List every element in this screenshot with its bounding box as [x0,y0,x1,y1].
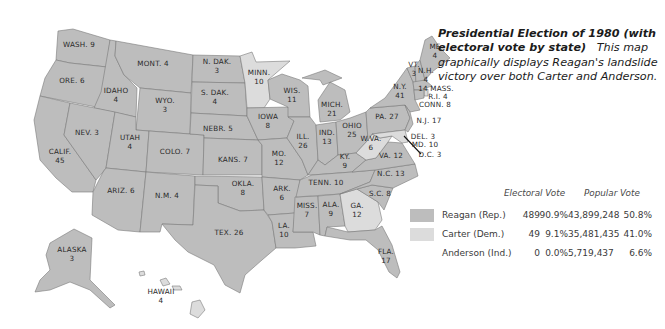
state-label-ny: N.Y. 41 [393,82,407,100]
state-hawaii-small1 [160,278,170,286]
state-label-idaho: IDAHO 4 [104,86,129,104]
state-label-ore: ORE. 6 [59,76,85,85]
state-label-ariz: ARIZ. 6 [107,186,135,195]
electoral-votes: 0 [508,248,540,258]
state-label-alaska: ALASKA 3 [57,245,86,263]
popular-votes: 43,899,248 [568,210,610,220]
header-popular-vote: Popular Vote [584,188,640,198]
state-hawaii-big [190,300,205,318]
swatch-reagan [410,209,434,222]
state-label-wash: WASH. 9 [63,40,95,49]
state-label-ky: KY. 9 [340,152,350,170]
state-label-ala: ALA. 9 [323,200,340,218]
state-label-calif: CALIF. 45 [49,147,72,165]
state-label-nebr: NEBR. 5 [203,124,233,133]
state-label-ohio: OHIO 25 [342,121,362,139]
map-caption: Presidential Election of 1980 (with elec… [438,27,660,85]
state-label-mich: MICH. 21 [321,100,343,118]
state-label-colo: COLO. 7 [160,147,190,156]
state-label-sc: S.C. 8 [369,189,391,198]
legend-row-anderson: Anderson (Ind.) 0 0.0% 5,719,437 6.6% [408,247,658,261]
state-label-nev: NEV. 3 [75,128,99,137]
header-electoral-vote: Electoral Vote [504,188,565,198]
state-label-minn: MINN. 10 [248,68,270,86]
state-label-nm: N.M. 4 [155,191,179,200]
electoral-votes: 49 [508,229,540,239]
legend-row-carter: Carter (Dem.) 49 9.1% 35,481,435 41.0% [408,228,658,242]
state-label-mont: MONT. 4 [137,59,168,68]
state-label-tenn: TENN. 10 [308,178,343,187]
state-label-wis: WIS. 11 [284,86,301,104]
state-ariz [92,168,146,232]
state-label-pa: PA. 27 [375,112,399,121]
state-label-va: VA. 12 [379,151,403,160]
state-label-mo: MO. 12 [272,149,286,167]
state-label-nc: N.C. 13 [377,169,405,178]
state-label-la: LA. 10 [278,221,290,239]
candidate-name: Anderson (Ind.) [442,248,512,258]
popular-votes: 5,719,437 [568,248,610,258]
state-nm [140,172,195,232]
state-label-nj: N.J. 17 [417,116,442,125]
electoral-percent: 0.0% [538,248,568,258]
candidate-name: Reagan (Rep.) [442,210,506,220]
state-label-miss: MISS. 7 [297,201,318,219]
state-label-utah: UTAH 4 [120,133,140,151]
state-label-ill: ILL. 26 [296,132,309,150]
state-label-fla: FLA. 17 [378,247,394,265]
state-label-dc: D.C. 3 [418,150,441,159]
popular-percent: 6.6% [620,248,652,258]
state-label-ga: GA. 12 [350,201,363,219]
popular-votes: 35,481,435 [568,229,610,239]
electoral-percent: 90.9% [538,210,568,220]
state-label-nh: N.H. 4 [418,66,434,84]
swatch-carter [410,228,434,241]
state-label-hawaii: HAWAII 4 [148,287,175,305]
state-label-tex: TEX. 26 [215,228,244,237]
electoral-percent: 9.1% [538,229,568,239]
state-label-kans: KANS. 7 [218,155,248,164]
state-alaska [35,229,115,308]
legend-row-reagan: Reagan (Rep.) 489 90.9% 43,899,248 50.8% [408,209,658,223]
state-label-ark: ARK. 6 [273,184,291,202]
state-label-iowa: IOWA 8 [258,112,278,130]
state-label-md: MD. 10 [412,140,439,149]
popular-percent: 41.0% [620,229,652,239]
state-label-wyo: WYO. 3 [155,96,175,114]
candidate-name: Carter (Dem.) [442,229,504,239]
state-label-wva: W.VA. 6 [360,134,381,152]
state-label-sdak: S. DAK. 4 [201,88,229,106]
state-label-okla: OKLA. 8 [232,179,255,197]
state-label-conn: CONN. 8 [419,100,451,109]
state-label-ndak: N. DAK. 3 [203,57,232,75]
state-hawaii-small3 [139,271,145,276]
electoral-votes: 489 [508,210,540,220]
popular-percent: 50.8% [620,210,652,220]
state-label-ind: IND. 13 [319,128,335,146]
